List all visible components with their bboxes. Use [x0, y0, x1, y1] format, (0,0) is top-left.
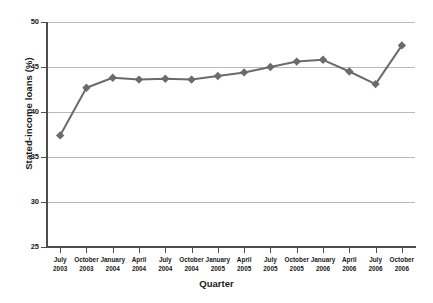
data-point-marker [82, 84, 90, 92]
data-point-marker [240, 68, 248, 76]
data-point-marker [319, 56, 327, 64]
data-point-marker [187, 75, 195, 83]
y-axis-title: Stated-income loans (%) [23, 26, 34, 202]
data-point-marker [109, 74, 117, 82]
data-point-marker [266, 63, 274, 71]
data-point-marker [135, 75, 143, 83]
data-series-line [0, 0, 433, 303]
chart-container: 253035404550 July2003October2003January2… [0, 0, 433, 303]
data-point-marker [161, 75, 169, 83]
data-point-marker [56, 131, 64, 139]
data-point-marker [345, 67, 353, 75]
data-point-marker [293, 57, 301, 65]
x-axis-title: Quarter [0, 278, 433, 289]
series-line-path [60, 45, 402, 135]
data-point-marker [214, 72, 222, 80]
